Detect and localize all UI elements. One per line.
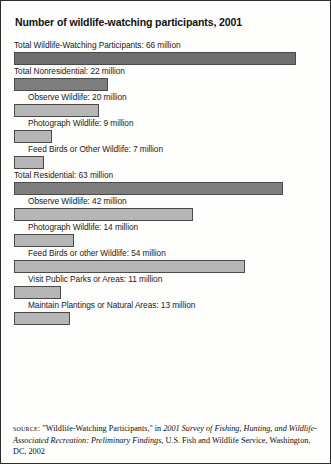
bar [14,286,61,299]
bar-track [14,130,320,143]
source-kicker: source: [13,423,40,433]
chart-row: Total Residential: 63 million [13,170,320,195]
bar-label: Feed Birds or other Wildlife: 54 million [13,248,320,260]
chart-row: Photograph Wildlife: 14 million [13,222,320,247]
bar [14,208,193,221]
bar [14,182,283,195]
figure-panel: Number of wildlife-watching participants… [0,0,331,464]
bar [14,156,44,169]
page-title: Number of wildlife-watching participants… [15,16,320,28]
bar-track [14,260,320,273]
source-note: source: "Wildlife-Watching Participants,… [13,423,320,457]
chart-row: Observe Wildlife: 20 million [13,92,320,117]
chart-row: Observe Wildlife: 42 million [13,196,320,221]
bar-label: Visit Public Parks or Areas: 11 million [13,274,320,286]
chart-row: Feed Birds or other Wildlife: 54 million [13,248,320,273]
bar [14,52,296,65]
bar [14,78,108,91]
bar-track [14,208,320,221]
bar-label: Total Wildlife-Watching Participants: 66… [13,40,320,52]
chart-row: Maintain Plantings or Natural Areas: 13 … [13,300,320,325]
bar [14,260,245,273]
bar-label: Total Nonresidential: 22 million [13,66,320,78]
bar [14,104,99,117]
bar-track [14,286,320,299]
bar-label: Observe Wildlife: 20 million [13,92,320,104]
bar-track [14,52,320,65]
chart-row: Total Nonresidential: 22 million [13,66,320,91]
bar-label: Total Residential: 63 million [13,170,320,182]
bar-track [14,312,320,325]
bar-label: Photograph Wildlife: 14 million [13,222,320,234]
bar-chart: Total Wildlife-Watching Participants: 66… [13,40,320,325]
bar [14,234,74,247]
bar-label: Feed Birds or Other Wildlife: 7 million [13,144,320,156]
bar-track [14,234,320,247]
chart-row: Feed Birds or Other Wildlife: 7 million [13,144,320,169]
chart-row: Total Wildlife-Watching Participants: 66… [13,40,320,65]
bar-track [14,182,320,195]
chart-row: Photograph Wildlife: 9 million [13,118,320,143]
chart-row: Visit Public Parks or Areas: 11 million [13,274,320,299]
bar [14,130,52,143]
source-pre-italic: "Wildlife-Watching Participants," in [40,424,163,433]
bar-track [14,156,320,169]
bar [14,312,70,325]
bar-track [14,78,320,91]
bar-label: Maintain Plantings or Natural Areas: 13 … [13,300,320,312]
bar-label: Observe Wildlife: 42 million [13,196,320,208]
bar-label: Photograph Wildlife: 9 million [13,118,320,130]
bar-track [14,104,320,117]
